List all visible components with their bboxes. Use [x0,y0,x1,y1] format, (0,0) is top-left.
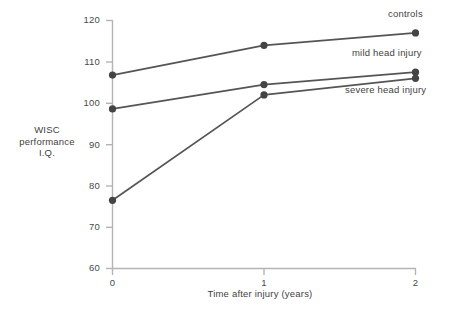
x-axis-title: Time after injury (years) [160,288,360,299]
series-label-severe-head-injury: severe head injury [345,84,426,95]
x-tick-label-1: 1 [254,277,274,288]
y-tick-label-80: 80 [70,180,100,191]
y-tick-label-60: 60 [70,262,100,273]
y-tick-label-110: 110 [70,56,100,67]
y-axis-title-line-1: WISC [8,124,86,136]
y-tick-label-100: 100 [70,97,100,108]
y-tick-label-120: 120 [70,14,100,25]
y-tick-label-70: 70 [70,221,100,232]
y-axis-title-line-3: I.Q. [8,147,86,159]
y-axis-title-line-2: performance [8,136,86,148]
x-tick-label-0: 0 [103,277,123,288]
y-tick-marks [106,21,113,269]
y-axis-title: WISC performance I.Q. [8,124,86,159]
x-tick-label-2: 2 [406,277,426,288]
series-label-mild-head-injury: mild head injury [352,47,422,58]
x-tick-marks [113,269,416,276]
chart-container: 120 110 100 90 80 70 60 0 1 2 WISC perfo… [0,0,464,313]
series-label-controls: controls [388,8,423,19]
